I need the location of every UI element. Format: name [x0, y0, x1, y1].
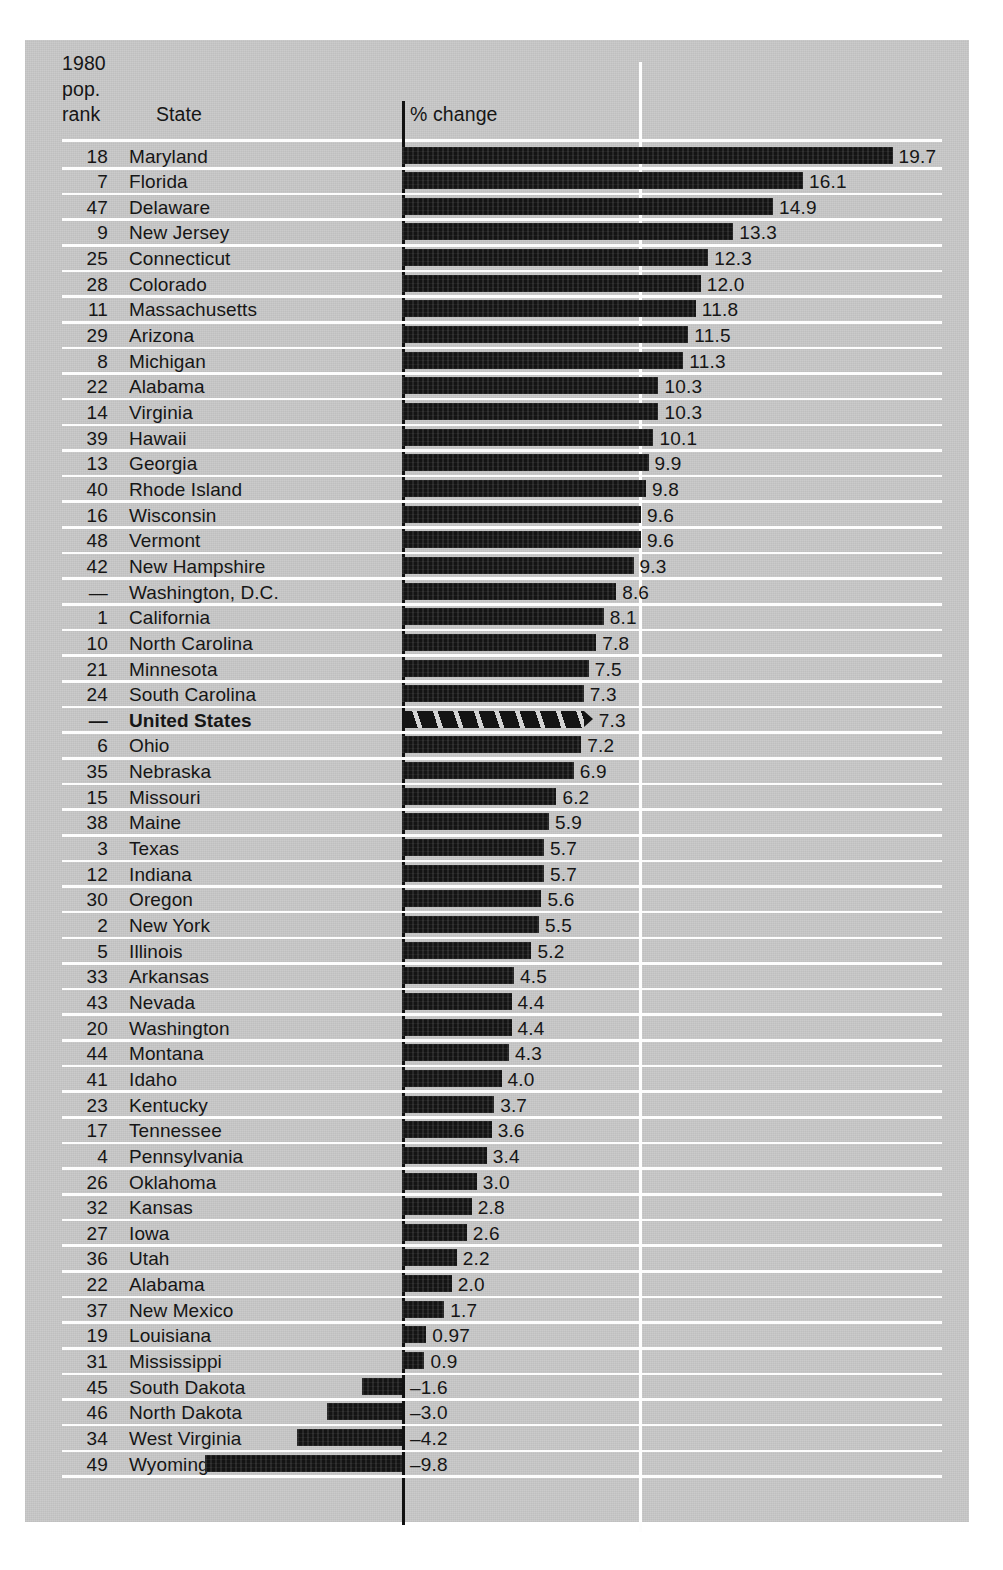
table-row[interactable]: 1California8.1	[25, 605, 969, 631]
row-state-label: Connecticut	[129, 248, 230, 269]
value-bar	[402, 660, 589, 677]
row-state-label: Montana	[129, 1043, 204, 1064]
table-row[interactable]: 22Alabama10.3	[25, 374, 969, 400]
table-row[interactable]: 18Maryland19.7	[25, 143, 969, 169]
table-row[interactable]: 8Michigan11.3	[25, 348, 969, 374]
row-rank: 25	[50, 248, 108, 269]
row-state-label: Alabama	[129, 1274, 205, 1295]
table-row[interactable]: 30Oregon5.6	[25, 887, 969, 913]
value-label: 2.6	[473, 1223, 500, 1244]
table-row[interactable]: 21Minnesota7.5	[25, 656, 969, 682]
table-row[interactable]: 6Ohio7.2	[25, 733, 969, 759]
table-row[interactable]: 34West Virginia–4.2	[25, 1426, 969, 1452]
row-rank: 24	[50, 684, 108, 705]
value-label: 11.8	[702, 299, 738, 320]
table-row[interactable]: 37New Mexico1.7	[25, 1297, 969, 1323]
table-row[interactable]: 4Pennsylvania3.4	[25, 1143, 969, 1169]
table-row[interactable]: 43Nevada4.4	[25, 989, 969, 1015]
value-label: 12.0	[707, 274, 745, 295]
value-bar	[327, 1403, 402, 1420]
table-row[interactable]: 7Florida16.1	[25, 169, 969, 195]
table-row[interactable]: 33Arkansas4.5	[25, 964, 969, 990]
table-row[interactable]: 20Washington4.4	[25, 1015, 969, 1041]
chart-panel: 1980 pop. rank State % change 18Maryland…	[25, 40, 969, 1522]
row-rank: 45	[50, 1377, 108, 1398]
row-rank: 19	[50, 1325, 108, 1346]
value-label: 16.1	[809, 171, 847, 192]
table-row[interactable]: 31Mississippi0.9	[25, 1349, 969, 1375]
table-row[interactable]: 12Indiana5.7	[25, 861, 969, 887]
value-label: 14.9	[779, 197, 817, 218]
table-row[interactable]: —Washington, D.C.8.6	[25, 579, 969, 605]
row-state-label: Pennsylvania	[129, 1146, 243, 1167]
table-row[interactable]: 39Hawaii10.1	[25, 425, 969, 451]
table-row[interactable]: 35Nebraska6.9	[25, 759, 969, 785]
row-state-label: Louisiana	[129, 1325, 211, 1346]
table-row[interactable]: 13Georgia9.9	[25, 451, 969, 477]
value-label: 12.3	[714, 248, 752, 269]
row-state-label: Arkansas	[129, 966, 209, 987]
table-row[interactable]: 36Utah2.2	[25, 1246, 969, 1272]
row-rank: 5	[50, 941, 108, 962]
value-bar	[402, 1301, 444, 1318]
table-row[interactable]: 22Alabama2.0	[25, 1272, 969, 1298]
table-row[interactable]: 24South Carolina7.3	[25, 682, 969, 708]
row-state-label: Texas	[129, 838, 179, 859]
row-state-label: Colorado	[129, 274, 207, 295]
value-label: 9.6	[647, 530, 674, 551]
table-row[interactable]: 42New Hampshire9.3	[25, 553, 969, 579]
table-row[interactable]: 41Idaho4.0	[25, 1066, 969, 1092]
table-row[interactable]: 23Kentucky3.7	[25, 1092, 969, 1118]
table-row[interactable]: 9New Jersey13.3	[25, 220, 969, 246]
row-rank: 22	[50, 1274, 108, 1295]
value-bar	[402, 1224, 467, 1241]
value-label: 2.0	[458, 1274, 485, 1295]
table-row[interactable]: 14Virginia10.3	[25, 400, 969, 426]
table-row[interactable]: 17Tennessee3.6	[25, 1118, 969, 1144]
value-label: 7.3	[599, 710, 626, 731]
row-state-label: Idaho	[129, 1069, 177, 1090]
value-bar	[402, 1326, 426, 1343]
table-row[interactable]: 26Oklahoma3.0	[25, 1169, 969, 1195]
row-rank: 29	[50, 325, 108, 346]
value-label: 4.4	[518, 1018, 545, 1039]
table-row[interactable]: 44Montana4.3	[25, 1041, 969, 1067]
table-row[interactable]: 46North Dakota–3.0	[25, 1400, 969, 1426]
table-row[interactable]: 27Iowa2.6	[25, 1220, 969, 1246]
table-row[interactable]: 49Wyoming–9.8	[25, 1451, 969, 1477]
table-row[interactable]: 11Massachusetts11.8	[25, 297, 969, 323]
table-row[interactable]: 25Connecticut12.3	[25, 246, 969, 272]
row-state-label: Minnesota	[129, 659, 218, 680]
value-label: –3.0	[410, 1402, 448, 1423]
table-row[interactable]: 2New York5.5	[25, 913, 969, 939]
table-row[interactable]: 38Maine5.9	[25, 810, 969, 836]
table-row[interactable]: 47Delaware14.9	[25, 194, 969, 220]
row-state-label: Arizona	[129, 325, 194, 346]
table-row[interactable]: 15Missouri6.2	[25, 784, 969, 810]
table-row[interactable]: 29Arizona11.5	[25, 323, 969, 349]
table-row[interactable]: 19Louisiana0.97	[25, 1323, 969, 1349]
table-row[interactable]: 32Kansas2.8	[25, 1195, 969, 1221]
table-row[interactable]: 5Illinois5.2	[25, 938, 969, 964]
row-rank: 34	[50, 1428, 108, 1449]
table-row[interactable]: 16Wisconsin9.6	[25, 502, 969, 528]
table-row[interactable]: 45South Dakota–1.6	[25, 1374, 969, 1400]
value-bar	[402, 1070, 502, 1087]
row-rank: 42	[50, 556, 108, 577]
table-row[interactable]: 48Vermont9.6	[25, 528, 969, 554]
table-row[interactable]: —United States7.3	[25, 707, 969, 733]
value-label: 3.6	[498, 1120, 525, 1141]
table-row[interactable]: 40Rhode Island9.8	[25, 476, 969, 502]
value-bar	[402, 1249, 457, 1266]
table-row[interactable]: 3Texas5.7	[25, 836, 969, 862]
table-row[interactable]: 10North Carolina7.8	[25, 630, 969, 656]
row-rank: 31	[50, 1351, 108, 1372]
value-bar	[402, 147, 893, 164]
value-label: 8.6	[622, 582, 649, 603]
row-rank: 22	[50, 376, 108, 397]
row-rank: 13	[50, 453, 108, 474]
table-row[interactable]: 28Colorado12.0	[25, 271, 969, 297]
row-state-label: New Hampshire	[129, 556, 265, 577]
row-state-label: Oklahoma	[129, 1172, 216, 1193]
value-bar	[402, 1096, 494, 1113]
